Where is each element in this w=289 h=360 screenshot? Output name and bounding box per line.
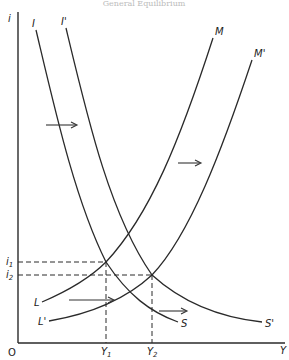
is-shifted-bottom-label: S' bbox=[265, 318, 274, 329]
lm-shifted-bottom-label: L' bbox=[38, 316, 46, 327]
is-lm-diagram: General Equilibrium i Y O i1 i2 Y1 Y2 I … bbox=[0, 0, 289, 360]
shift-arrow bbox=[178, 160, 201, 166]
is-shifted-top-label: I' bbox=[61, 16, 67, 27]
i2-label: i2 bbox=[6, 269, 14, 282]
shift-arrow bbox=[69, 297, 114, 303]
lm-curve-bottom-label: L bbox=[34, 297, 40, 308]
lm-shifted-curve bbox=[49, 60, 252, 321]
is-curve-top-label: I bbox=[32, 18, 35, 29]
shift-arrow bbox=[46, 122, 77, 128]
origin-label: O bbox=[8, 347, 16, 358]
is-curve-bottom-label: S bbox=[181, 318, 188, 329]
y-axis-label: i bbox=[8, 13, 11, 24]
diagram-title: General Equilibrium bbox=[103, 0, 186, 8]
y1-label: Y1 bbox=[101, 346, 112, 359]
is-curve bbox=[36, 30, 178, 322]
i1-label: i1 bbox=[6, 256, 13, 269]
x-axis-label: Y bbox=[280, 345, 287, 356]
lm-curve-top-label: M bbox=[215, 26, 224, 37]
lm-shifted-top-label: M' bbox=[254, 48, 265, 59]
shift-arrow bbox=[159, 308, 187, 314]
is-shifted-curve bbox=[66, 28, 262, 322]
y2-label: Y2 bbox=[147, 346, 158, 359]
